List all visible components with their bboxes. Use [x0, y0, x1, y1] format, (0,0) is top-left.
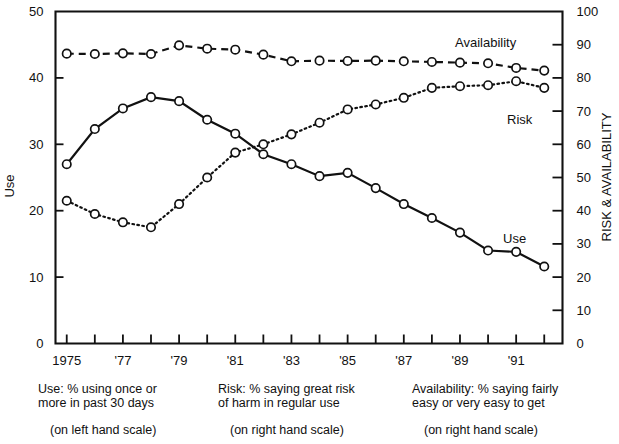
- left-axis-title: Use: [2, 174, 17, 197]
- data-point: [259, 50, 267, 58]
- x-axis-tick-label: '91: [508, 353, 525, 368]
- data-point: [203, 44, 211, 52]
- series-label-availability: Availability: [455, 35, 517, 50]
- data-point: [203, 173, 211, 181]
- right-axis-title: RISK & AVAILABILITY: [599, 112, 614, 241]
- data-point: [119, 104, 127, 112]
- data-point: [512, 64, 520, 72]
- data-point: [91, 125, 99, 133]
- data-point: [512, 248, 520, 256]
- data-point: [259, 140, 267, 148]
- caption-line: easy or very easy to get: [412, 396, 545, 410]
- right-axis-tick-label: 80: [577, 70, 591, 85]
- x-axis-tick-label: '77: [114, 353, 131, 368]
- x-axis-tick-label: '81: [227, 353, 244, 368]
- right-axis-tick-label: 30: [577, 236, 591, 251]
- data-point: [400, 200, 408, 208]
- caption-block: Use: % using once ormore in past 30 days…: [38, 382, 559, 437]
- data-point: [231, 129, 239, 137]
- right-axis-tick-label: 90: [577, 37, 591, 52]
- caption-scale-note: (on right hand scale): [424, 423, 538, 437]
- data-point: [456, 58, 464, 66]
- data-point: [400, 94, 408, 102]
- data-point: [428, 84, 436, 92]
- data-point: [63, 160, 71, 168]
- data-point: [147, 223, 155, 231]
- data-point: [147, 50, 155, 58]
- data-point: [484, 59, 492, 67]
- data-point: [512, 77, 520, 85]
- data-point: [287, 160, 295, 168]
- x-axis-tick-label: '89: [451, 353, 468, 368]
- data-point: [287, 57, 295, 65]
- x-axis-tick-label: 1975: [52, 353, 81, 368]
- data-point: [175, 97, 183, 105]
- right-axis-tick-label: 10: [577, 303, 591, 318]
- right-axis-tick-label: 40: [577, 203, 591, 218]
- data-point: [231, 45, 239, 53]
- series-label-use: Use: [503, 231, 526, 246]
- data-point: [259, 150, 267, 158]
- caption-line: Use: % using once or: [38, 382, 157, 396]
- left-axis-tick-label: 40: [29, 70, 43, 85]
- data-point: [175, 41, 183, 49]
- data-point: [147, 93, 155, 101]
- caption-scale-note: (on left hand scale): [50, 423, 156, 437]
- caption-column: Use: % using once ormore in past 30 days…: [38, 382, 157, 437]
- right-axis-tick-label: 50: [577, 170, 591, 185]
- data-point: [540, 262, 548, 270]
- data-point: [231, 148, 239, 156]
- right-axis-tick-label: 60: [577, 137, 591, 152]
- data-point: [315, 172, 323, 180]
- series-label-risk: Risk: [507, 112, 533, 127]
- x-axis-tick-label: '79: [171, 353, 188, 368]
- right-axis-tick-label: 100: [577, 4, 599, 19]
- x-axis-tick-label: '85: [339, 353, 356, 368]
- left-axis-tick-label: 0: [36, 336, 43, 351]
- chart-page: 01020304050 0102030405060708090100 1975'…: [0, 0, 619, 444]
- data-point: [484, 246, 492, 254]
- data-point: [343, 105, 351, 113]
- data-point: [372, 56, 380, 64]
- data-point: [456, 82, 464, 90]
- data-point: [63, 49, 71, 57]
- caption-line: Risk: % saying great risk: [218, 382, 356, 396]
- data-point: [91, 50, 99, 58]
- data-point: [400, 57, 408, 65]
- chart-background: [0, 0, 619, 444]
- data-point: [315, 119, 323, 127]
- data-point: [119, 49, 127, 57]
- caption-scale-note: (on right hand scale): [230, 423, 344, 437]
- x-axis-tick-label: '87: [395, 353, 412, 368]
- left-axis-tick-label: 30: [29, 137, 43, 152]
- data-point: [372, 100, 380, 108]
- line-chart: 01020304050 0102030405060708090100 1975'…: [0, 0, 619, 444]
- data-point: [343, 57, 351, 65]
- caption-line: Availability: % saying fairly: [412, 382, 559, 396]
- data-point: [203, 116, 211, 124]
- data-point: [175, 200, 183, 208]
- left-axis-tick-label: 10: [29, 270, 43, 285]
- data-point: [91, 210, 99, 218]
- left-axis-tick-label: 50: [29, 4, 43, 19]
- data-point: [428, 214, 436, 222]
- data-point: [428, 58, 436, 66]
- caption-line: of harm in regular use: [218, 396, 340, 410]
- data-point: [119, 218, 127, 226]
- data-point: [540, 66, 548, 74]
- data-point: [287, 130, 295, 138]
- x-axis-tick-label: '83: [283, 353, 300, 368]
- data-point: [484, 81, 492, 89]
- data-point: [456, 228, 464, 236]
- caption-column: Risk: % saying great riskof harm in regu…: [218, 382, 356, 437]
- caption-column: Availability: % saying fairlyeasy or ver…: [412, 382, 559, 437]
- left-axis-tick-label: 20: [29, 203, 43, 218]
- data-point: [540, 84, 548, 92]
- data-point: [343, 169, 351, 177]
- caption-line: more in past 30 days: [38, 396, 154, 410]
- right-axis-tick-label: 20: [577, 270, 591, 285]
- right-axis-tick-label: 0: [577, 336, 584, 351]
- right-axis-tick-label: 70: [577, 104, 591, 119]
- data-point: [315, 56, 323, 64]
- data-point: [63, 197, 71, 205]
